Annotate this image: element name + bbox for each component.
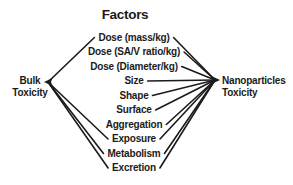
factor-label: Surface	[116, 104, 151, 116]
connector-line	[48, 38, 94, 83]
factor-label: Dose (SA/V ratio/kg)	[88, 46, 180, 58]
connector-line	[160, 80, 215, 139]
bulk-node-label-line2: Toxicity	[6, 87, 54, 100]
connector-line	[48, 82, 108, 139]
factor-label: Aggregation	[106, 119, 163, 131]
factor-label: Size	[124, 75, 143, 87]
nanoparticles-node-label-line1: Nanoparticles	[222, 75, 286, 88]
factor-label: Exposure	[112, 133, 156, 145]
diagram-title: Factors	[102, 7, 149, 22]
factor-label: Dose (Diameter/kg)	[90, 61, 178, 73]
nanoparticles-node-label-line2: Toxicity	[222, 87, 286, 100]
connector-line	[182, 67, 215, 81]
nanoparticles-toxicity-node: Nanoparticles Toxicity	[222, 75, 286, 100]
diagram-stage: Factors Bulk Toxicity Nanoparticles Toxi…	[0, 0, 293, 185]
factor-label: Metabolism	[107, 148, 160, 160]
connector-line	[184, 52, 215, 80]
factor-label: Shape	[119, 90, 148, 102]
connector-line	[148, 80, 215, 81]
bulk-toxicity-node: Bulk Toxicity	[6, 75, 54, 100]
factor-label: Dose (mass/kg)	[98, 32, 169, 44]
bulk-node-label-line1: Bulk	[6, 75, 54, 88]
connector-line	[48, 82, 108, 168]
factor-label: Excretion	[112, 162, 156, 174]
